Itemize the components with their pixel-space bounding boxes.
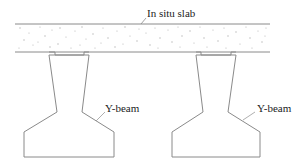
beam-left-outline bbox=[24, 55, 114, 157]
beam-left-label: Y-beam bbox=[105, 102, 140, 114]
beam-right-label: Y-beam bbox=[257, 102, 292, 114]
beam-right-leader-line bbox=[243, 112, 255, 120]
slab-label: In situ slab bbox=[147, 7, 196, 19]
y-beam-left-label-group: Y-beam bbox=[96, 102, 140, 121]
y-beam-left bbox=[24, 52, 114, 157]
y-beam-right bbox=[172, 52, 260, 157]
slab-aggregate-texture bbox=[18, 26, 266, 48]
slab-leader-line bbox=[141, 18, 146, 24]
slab-label-group: In situ slab bbox=[141, 7, 196, 24]
y-beam-slab-diagram: In situ slab Y-beam Y-beam bbox=[0, 0, 302, 166]
y-beam-right-label-group: Y-beam bbox=[243, 102, 292, 120]
beam-right-outline bbox=[172, 55, 260, 157]
beam-left-leader-line bbox=[96, 112, 105, 121]
in-situ-slab bbox=[15, 24, 270, 52]
